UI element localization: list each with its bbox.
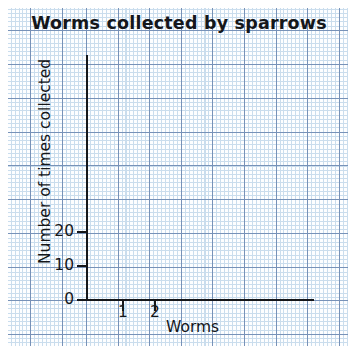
x-tick-label-1: 1	[112, 303, 134, 321]
y-axis-title: Number of times collected	[36, 74, 54, 264]
y-tick-mark-10	[77, 265, 86, 267]
y-tick-label-0: 0	[44, 291, 74, 307]
chart-figure: Worms collected by sparrows 1 2 0 10 20 …	[0, 0, 358, 355]
y-axis-line	[86, 55, 88, 301]
plot-area	[88, 55, 314, 299]
x-axis-line	[86, 299, 314, 301]
y-tick-mark-0	[77, 299, 86, 301]
x-axis-title: Worms	[166, 318, 219, 336]
y-tick-mark-20	[77, 231, 86, 233]
x-tick-label-2: 2	[144, 303, 166, 321]
